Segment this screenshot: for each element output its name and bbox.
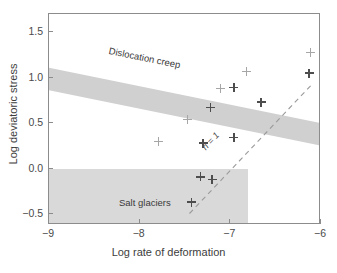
data-point bbox=[199, 139, 208, 148]
data-point bbox=[206, 103, 215, 112]
data-point bbox=[306, 48, 315, 57]
x-tick bbox=[48, 219, 49, 224]
data-point bbox=[242, 67, 251, 76]
x-tick-label: −8 bbox=[133, 227, 145, 239]
data-point bbox=[196, 172, 205, 181]
x-axis-title: Log rate of deformation bbox=[0, 246, 337, 258]
y-tick bbox=[48, 122, 53, 123]
data-point bbox=[183, 115, 192, 124]
y-tick bbox=[48, 77, 53, 78]
data-point bbox=[187, 198, 196, 207]
data-point bbox=[305, 69, 314, 78]
x-tick-label: −9 bbox=[42, 227, 54, 239]
y-tick bbox=[48, 213, 53, 214]
chart-figure: Dislocation creep Salt glaciers n = 1 −9… bbox=[0, 0, 337, 273]
data-point bbox=[229, 83, 238, 92]
x-tick bbox=[229, 219, 230, 224]
data-point bbox=[154, 137, 163, 146]
data-point bbox=[208, 175, 217, 184]
x-tick bbox=[320, 219, 321, 224]
data-point bbox=[216, 84, 225, 93]
y-axis-title: Log deviatoric stress bbox=[7, 39, 19, 189]
data-point bbox=[257, 98, 266, 107]
y-tick bbox=[48, 168, 53, 169]
data-point bbox=[229, 133, 238, 142]
y-tick-label: 1.5 bbox=[10, 25, 43, 37]
x-tick bbox=[139, 219, 140, 224]
y-tick-label: −0.5 bbox=[10, 207, 43, 219]
plot-area: Dislocation creep Salt glaciers n = 1 bbox=[48, 13, 320, 224]
x-tick-label: −7 bbox=[223, 227, 235, 239]
y-tick bbox=[48, 31, 53, 32]
x-tick-label: −6 bbox=[314, 227, 326, 239]
